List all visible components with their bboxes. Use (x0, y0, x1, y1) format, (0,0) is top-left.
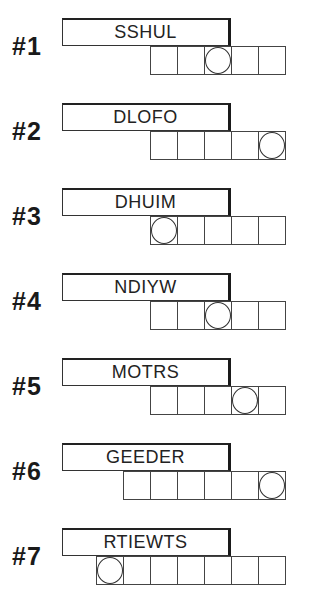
answer-cell[interactable] (204, 216, 232, 245)
scrambled-word-box: DHUIM (62, 188, 231, 216)
answer-cell[interactable] (177, 556, 205, 585)
circle-marker-icon (232, 387, 258, 414)
answer-cell[interactable] (177, 131, 205, 160)
puzzle-4: #4 NDIYW (0, 273, 310, 358)
circle-marker-icon (205, 302, 231, 329)
answer-cell[interactable] (231, 386, 259, 415)
answer-cell[interactable] (96, 556, 124, 585)
puzzle-1: #1 SSHUL (0, 18, 310, 103)
answer-cell[interactable] (258, 46, 286, 75)
answer-cell[interactable] (150, 216, 178, 245)
answer-cell[interactable] (258, 131, 286, 160)
answer-cells (150, 216, 286, 245)
answer-cell[interactable] (150, 46, 178, 75)
scrambled-word-box: RTIEWTS (62, 528, 231, 556)
scrambled-word: DLOFO (63, 107, 228, 128)
answer-cell[interactable] (150, 471, 178, 500)
puzzle-2: #2 DLOFO (0, 103, 310, 188)
puzzle-number: #5 (12, 372, 42, 401)
answer-cells (150, 46, 286, 75)
scrambled-word: GEEDER (63, 447, 228, 468)
answer-cell[interactable] (231, 46, 259, 75)
answer-cell[interactable] (231, 556, 259, 585)
scrambled-word: MOTRS (63, 362, 228, 383)
answer-cell[interactable] (204, 556, 232, 585)
scrambled-word: RTIEWTS (63, 532, 228, 553)
puzzle-number: #3 (12, 202, 42, 231)
answer-cells (123, 471, 286, 500)
puzzle-number: #1 (12, 32, 42, 61)
answer-cell[interactable] (204, 301, 232, 330)
answer-cell[interactable] (204, 471, 232, 500)
answer-cell[interactable] (123, 471, 151, 500)
circle-marker-icon (259, 472, 285, 499)
scrambled-word: SSHUL (63, 22, 228, 43)
scrambled-word-box: MOTRS (62, 358, 231, 386)
answer-cell[interactable] (231, 301, 259, 330)
puzzle-3: #3 DHUIM (0, 188, 310, 273)
answer-cell[interactable] (258, 216, 286, 245)
answer-cell[interactable] (123, 556, 151, 585)
scrambled-word-box: DLOFO (62, 103, 231, 131)
puzzle-number: #4 (12, 287, 42, 316)
answer-cell[interactable] (177, 386, 205, 415)
circle-marker-icon (259, 132, 285, 159)
answer-cell[interactable] (258, 386, 286, 415)
answer-cell[interactable] (204, 386, 232, 415)
answer-cell[interactable] (177, 471, 205, 500)
answer-cell[interactable] (258, 556, 286, 585)
circle-marker-icon (97, 557, 123, 584)
answer-cell[interactable] (258, 471, 286, 500)
puzzle-number: #2 (12, 117, 42, 146)
answer-cell[interactable] (231, 471, 259, 500)
puzzle-6: #6 GEEDER (0, 443, 310, 528)
scrambled-word-box: NDIYW (62, 273, 231, 301)
scrambled-word: NDIYW (63, 277, 228, 298)
answer-cells (96, 556, 286, 585)
answer-cell[interactable] (231, 131, 259, 160)
answer-cell[interactable] (150, 386, 178, 415)
answer-cells (150, 131, 286, 160)
circle-marker-icon (205, 47, 231, 74)
answer-cell[interactable] (150, 131, 178, 160)
answer-cell[interactable] (204, 46, 232, 75)
answer-cells (150, 386, 286, 415)
answer-cell[interactable] (177, 46, 205, 75)
answer-cell[interactable] (177, 216, 205, 245)
circle-marker-icon (151, 217, 177, 244)
cropped-header (0, 0, 150, 5)
answer-cell[interactable] (177, 301, 205, 330)
answer-cells (150, 301, 286, 330)
scrambled-word-box: SSHUL (62, 18, 231, 46)
scrambled-word-box: GEEDER (62, 443, 231, 471)
puzzle-number: #6 (12, 457, 42, 486)
answer-cell[interactable] (150, 556, 178, 585)
puzzle-7: #7 RTIEWTS (0, 528, 310, 601)
puzzle-number: #7 (12, 542, 42, 571)
scrambled-word: DHUIM (63, 192, 228, 213)
answer-cell[interactable] (231, 216, 259, 245)
answer-cell[interactable] (204, 131, 232, 160)
puzzle-5: #5 MOTRS (0, 358, 310, 443)
answer-cell[interactable] (258, 301, 286, 330)
answer-cell[interactable] (150, 301, 178, 330)
